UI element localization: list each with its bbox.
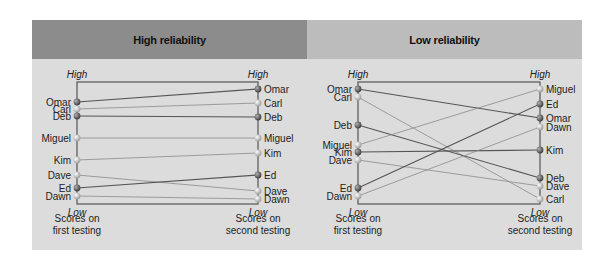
first-test-label: Dawn — [45, 191, 71, 202]
dot-icon — [355, 94, 362, 101]
first-test-label: Carl — [334, 92, 352, 103]
second-testing-caption: Scores onsecond testing — [218, 213, 298, 237]
connector-carl — [358, 97, 540, 199]
dot-icon — [355, 86, 362, 93]
connector-kim — [77, 153, 258, 160]
dot-icon — [537, 124, 544, 131]
dot-icon — [74, 106, 81, 113]
second-test-label: Kim — [546, 145, 563, 156]
dot-icon — [255, 172, 262, 179]
high-reliability-panel: High reliability HighHighLowLowOmarCarlD… — [32, 20, 307, 250]
second-test-label: Miguel — [546, 84, 575, 95]
dot-icon — [355, 142, 362, 149]
high-label: High — [348, 69, 369, 80]
dot-icon — [255, 114, 262, 121]
second-test-label: Dawn — [264, 194, 290, 205]
dot-icon — [355, 149, 362, 156]
dot-icon — [255, 135, 262, 142]
dot-icon — [537, 196, 544, 203]
second-test-label: Ed — [546, 99, 558, 110]
dot-icon — [537, 175, 544, 182]
dot-icon — [255, 150, 262, 157]
second-test-label: Dave — [546, 181, 570, 192]
first-testing-caption: Scores onfirst testing — [318, 213, 398, 237]
connector-deb — [77, 116, 258, 117]
dot-icon — [255, 86, 262, 93]
high-label: High — [67, 69, 88, 80]
low-reliability-panel: Low reliability HighHighLowLowOmarCarlDe… — [307, 20, 582, 250]
first-test-label: Miguel — [42, 133, 71, 144]
connector-ed — [77, 175, 258, 188]
dot-icon — [255, 100, 262, 107]
second-test-label: Miguel — [264, 133, 293, 144]
connector-dawn — [77, 196, 258, 199]
second-testing-caption: Scores onsecond testing — [500, 213, 580, 237]
dot-icon — [74, 157, 81, 164]
second-test-label: Omar — [264, 84, 290, 95]
dot-icon — [537, 115, 544, 122]
dot-icon — [74, 193, 81, 200]
second-test-label: Kim — [264, 148, 281, 159]
dot-icon — [537, 86, 544, 93]
dot-icon — [355, 185, 362, 192]
dot-icon — [355, 157, 362, 164]
dot-icon — [537, 101, 544, 108]
dot-icon — [537, 183, 544, 190]
dot-icon — [74, 185, 81, 192]
dot-icon — [255, 196, 262, 203]
dot-icon — [74, 172, 81, 179]
dot-icon — [355, 193, 362, 200]
first-test-label: Deb — [53, 111, 72, 122]
dot-icon — [537, 147, 544, 154]
second-test-label: Carl — [546, 194, 564, 205]
dot-icon — [355, 122, 362, 129]
high-label: High — [248, 69, 269, 80]
connector-omar — [358, 89, 540, 118]
connector-dawn — [358, 127, 540, 196]
dot-icon — [255, 188, 262, 195]
second-test-label: Deb — [264, 112, 283, 123]
dot-icon — [74, 99, 81, 106]
first-test-label: Kim — [54, 155, 71, 166]
dot-icon — [74, 113, 81, 120]
second-test-label: Ed — [264, 170, 276, 181]
first-testing-caption: Scores onfirst testing — [37, 213, 117, 237]
first-test-label: Deb — [334, 120, 353, 131]
connector-carl — [77, 103, 258, 109]
first-test-label: Dave — [48, 170, 72, 181]
first-test-label: Dave — [329, 155, 353, 166]
connector-omar — [77, 89, 258, 102]
connector-dave — [358, 160, 540, 186]
second-test-label: Dawn — [546, 122, 572, 133]
first-test-label: Dawn — [326, 191, 352, 202]
second-test-label: Carl — [264, 98, 282, 109]
dot-icon — [74, 135, 81, 142]
high-label: High — [530, 69, 551, 80]
